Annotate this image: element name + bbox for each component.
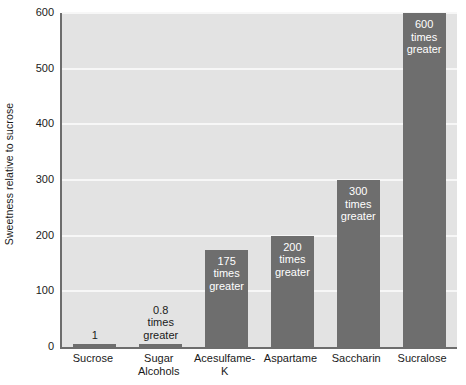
y-axis-tick-labels: 6005004003002001000 (0, 0, 54, 385)
y-tick-label: 300 (8, 174, 54, 185)
y-tick-label: 100 (8, 285, 54, 296)
x-category-label: Aspartame (258, 352, 324, 365)
bar-group[interactable]: 200 times greater (271, 13, 314, 347)
bar-value-label: 600 times greater (392, 18, 456, 56)
x-category-label: Sugar Alcohols (126, 352, 192, 377)
bar-value-label: 200 times greater (260, 241, 324, 279)
bar[interactable] (73, 344, 116, 347)
bar[interactable] (139, 344, 182, 347)
y-tick-label: 0 (8, 341, 54, 352)
gridline (62, 290, 457, 292)
gridline (62, 179, 457, 181)
gridline (62, 235, 457, 237)
y-tick-label: 400 (8, 118, 54, 129)
bar-group[interactable]: 175 times greater (205, 13, 248, 347)
y-tick-label: 600 (8, 7, 54, 18)
x-category-label: Sucralose (389, 352, 455, 365)
gridline (62, 12, 457, 14)
x-category-label: Saccharin (323, 352, 389, 365)
x-category-label: Sucrose (60, 352, 126, 365)
bar-group[interactable]: 0.8 times greater (139, 13, 182, 347)
x-category-label: Acesulfame-K (192, 352, 258, 377)
bar-group[interactable]: 300 times greater (337, 13, 380, 347)
gridline (62, 123, 457, 125)
bar-value-label: 0.8 times greater (129, 304, 193, 342)
bar-value-label: 1 (63, 329, 127, 342)
gridline (62, 68, 457, 70)
bar[interactable] (403, 13, 446, 347)
y-tick-label: 500 (8, 63, 54, 74)
plot-area: 10.8 times greater175 times greater200 t… (60, 13, 457, 349)
y-tick-label: 200 (8, 230, 54, 241)
bar-group[interactable]: 1 (73, 13, 116, 347)
bar-value-label: 300 times greater (326, 185, 390, 223)
bar-value-label: 175 times greater (195, 255, 259, 293)
bar-group[interactable]: 600 times greater (403, 13, 446, 347)
x-axis-category-labels: SucroseSugar AlcoholsAcesulfame-KAsparta… (60, 352, 455, 384)
sweetness-bar-chart: Sweetness relative to sucrose 6005004003… (0, 0, 466, 385)
